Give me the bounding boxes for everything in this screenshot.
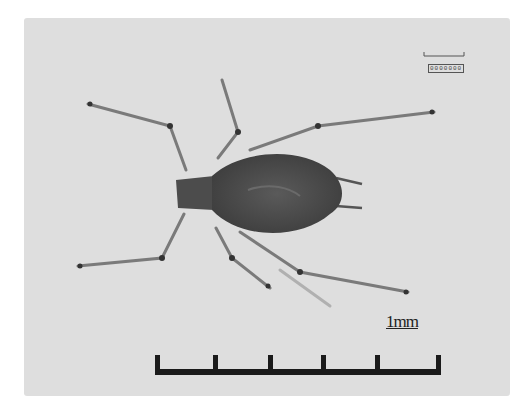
aphid-illustration	[0, 0, 526, 412]
scale-label: 1mm	[386, 312, 418, 332]
mini-scale-bar	[424, 52, 464, 56]
mini-scale-label: 0000000	[428, 64, 464, 73]
scale-bar	[155, 355, 441, 375]
aphid-abdomen	[212, 154, 342, 233]
